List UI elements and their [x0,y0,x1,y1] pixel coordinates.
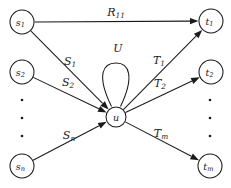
graph-node-s1[interactable]: s1 [10,10,34,34]
graph-node-tm[interactable]: tm [198,154,222,178]
arrowhead-icon [190,153,199,160]
arrowhead-icon [190,18,199,24]
edge-label-u-to-t2: T2 [154,77,166,91]
ellipsis-dot [209,99,212,102]
arrowhead-icon [98,122,107,129]
diagram-canvas: s1s2snut1t2tm R11S1S2SnT1T2TmU [0,0,231,188]
graph-edge-s1-to-u [31,31,109,110]
edge-label-s1-to-t1: R11 [106,6,125,20]
self-loop-edge-u [103,63,129,107]
edge-label-u-to-t1: T1 [153,54,165,68]
graph-node-s2[interactable]: s2 [10,60,34,84]
edge-layer [31,18,202,160]
ellipsis-dot [209,117,212,120]
graph-node-sn[interactable]: sn [10,154,34,178]
node-label-u: u [113,112,119,123]
graph-node-u[interactable]: u [106,107,126,127]
graph-diagram: s1s2snut1t2tm R11S1S2SnT1T2TmU [0,0,231,188]
ellipsis-dot [21,99,24,102]
graph-node-t2[interactable]: t2 [199,60,223,84]
ellipsis-dot [209,135,212,138]
graph-edge-u-to-tm [125,122,199,160]
arrowhead-icon [191,77,200,84]
edge-label-sn-to-u: Sn [63,129,76,143]
left-ellipsis [21,99,24,138]
graph-node-t1[interactable]: t1 [199,9,223,33]
edge-label-s2-to-u: S2 [62,76,75,90]
edge-label-u-to-tm: Tm [154,127,168,141]
node-layer: s1s2snut1t2tm [10,9,223,178]
edge-label-s1-to-u: S1 [64,55,76,69]
ellipsis-dot [21,135,24,138]
edge-label-self-loop: U [113,42,123,55]
self-loop-layer [103,63,129,107]
graph-edge-u-to-t1 [123,30,202,110]
ellipsis-dot [21,117,24,120]
right-ellipsis [209,99,212,138]
